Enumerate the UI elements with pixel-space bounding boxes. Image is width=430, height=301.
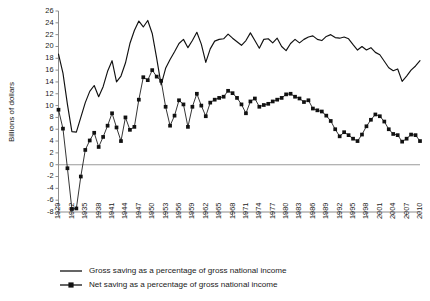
y-tick-label: 0 [49, 160, 53, 169]
x-axis: 1929193219351938194119441947195019531956… [53, 203, 424, 219]
x-tick-label: 1938 [94, 203, 103, 219]
series-net-saving-marker [271, 100, 275, 104]
series-net-saving-marker [400, 140, 404, 144]
x-tick-label: 1950 [147, 203, 156, 219]
series-net-saving-marker [253, 97, 257, 101]
series-net-saving-marker [115, 126, 119, 130]
series-net-saving-marker [119, 139, 123, 143]
series-net-saving-marker [347, 133, 351, 137]
series-net-saving-marker [414, 133, 418, 137]
series-net-saving-marker [57, 108, 61, 112]
series-net-saving-marker [101, 135, 105, 139]
series-net-saving-marker [146, 78, 150, 82]
x-tick-label: 1941 [107, 203, 116, 219]
series-net-saving-marker [61, 127, 65, 131]
series-net-saving-marker [92, 131, 96, 135]
series-net-saving-marker [378, 114, 382, 118]
x-tick-label: 2004 [388, 203, 397, 219]
x-tick-label: 1992 [335, 203, 344, 219]
series-net-saving-marker [382, 120, 386, 124]
legend-label: Gross saving as a percentage of gross na… [89, 266, 287, 275]
x-tick-label: 1968 [228, 203, 237, 219]
x-tick-label: 1989 [321, 203, 330, 219]
chart-legend: Gross saving as a percentage of gross na… [60, 266, 287, 289]
legend-label: Net saving as a percentage of gross nati… [89, 280, 278, 289]
x-tick-label: 1947 [134, 203, 143, 219]
y-axis: 26242220181614121086420-2-4-6-8 [45, 6, 58, 216]
series-net-saving-marker [137, 98, 141, 102]
series-net-saving-marker [226, 89, 230, 93]
y-tick-label: 10 [45, 101, 53, 110]
y-tick-label: 6 [49, 124, 53, 133]
x-tick-label: 1974 [254, 203, 263, 219]
chart-container: Billions of dollars 26242220181614121086… [0, 0, 430, 301]
y-tick-label: 12 [45, 89, 53, 98]
series-net-saving-marker [240, 103, 244, 107]
series-net-saving-marker [249, 100, 253, 104]
data-series-group [57, 20, 422, 210]
y-tick-label: 8 [49, 112, 53, 121]
series-net-saving-marker [333, 127, 337, 131]
series-net-saving-marker [168, 124, 172, 128]
series-net-saving-marker [70, 207, 74, 211]
x-tick-label: 1965 [214, 203, 223, 219]
series-net-saving-marker [324, 114, 328, 118]
saving-percentage-line-chart: Billions of dollars 26242220181614121086… [0, 0, 430, 301]
x-tick-label: 1959 [187, 203, 196, 219]
x-tick-label: 1971 [241, 203, 250, 219]
series-net-saving-marker [75, 207, 79, 211]
series-net-saving-marker [360, 133, 364, 137]
x-tick-label: 1944 [120, 203, 129, 219]
y-tick-label: 26 [45, 6, 53, 15]
x-tick-label: 2007 [402, 203, 411, 219]
series-net-saving-marker [374, 113, 378, 117]
series-net-saving-marker [405, 137, 409, 141]
series-net-saving-marker [316, 108, 320, 112]
series-net-saving-marker [204, 114, 208, 118]
series-net-saving-marker [356, 139, 360, 143]
series-net-saving-marker [391, 132, 395, 136]
y-tick-label: 2 [49, 148, 53, 157]
series-net-saving-marker [150, 68, 154, 72]
y-axis-title-label: Billions of dollars [7, 82, 16, 142]
series-net-saving-marker [164, 105, 168, 109]
series-net-saving-marker [195, 92, 199, 96]
series-net-saving-marker [396, 133, 400, 137]
x-tick-label: 1986 [308, 203, 317, 219]
series-net-saving-marker [222, 95, 226, 99]
series-net-saving-marker [365, 124, 369, 128]
series-net-saving-marker [235, 96, 239, 100]
legend-marker-square [68, 282, 73, 287]
series-net-saving-marker [298, 97, 302, 101]
series-net-saving-marker [88, 139, 92, 143]
x-tick-label: 1998 [361, 203, 370, 219]
series-net-saving-marker [244, 111, 248, 115]
x-tick-label: 1935 [80, 203, 89, 219]
series-net-saving-marker [213, 98, 217, 102]
series-net-saving-marker [311, 107, 315, 111]
x-tick-label: 1953 [161, 203, 170, 219]
y-tick-label: 22 [45, 30, 53, 39]
series-net-saving-marker [409, 133, 413, 137]
y-tick-label: 20 [45, 41, 53, 50]
series-net-saving-marker [266, 102, 270, 106]
series-net-saving-marker [302, 100, 306, 104]
series-net-saving-marker [329, 119, 333, 123]
y-tick-label: 18 [45, 53, 53, 62]
y-tick-label: -2 [47, 171, 54, 180]
x-tick-label: 1980 [281, 203, 290, 219]
x-tick-label: 1983 [294, 203, 303, 219]
series-net-saving-marker [369, 118, 373, 122]
x-tick-label: 2010 [415, 203, 424, 219]
series-net-saving-marker [106, 124, 110, 128]
series-net-saving-marker [66, 166, 70, 170]
series-net-saving-marker [418, 139, 422, 143]
y-tick-label: 16 [45, 65, 53, 74]
x-tick-label: 1977 [268, 203, 277, 219]
y-tick-label: 4 [49, 136, 53, 145]
series-net-saving-line [59, 70, 421, 209]
series-net-saving-marker [338, 134, 342, 138]
series-net-saving-marker [191, 105, 195, 109]
series-net-saving-marker [342, 130, 346, 134]
series-net-saving-marker [307, 98, 311, 102]
